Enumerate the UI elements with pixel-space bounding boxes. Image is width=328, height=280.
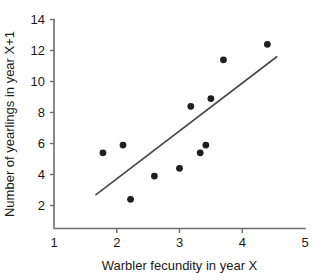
data-point bbox=[187, 103, 194, 110]
x-tick-label-4: 4 bbox=[239, 235, 246, 250]
chart-canvas: 14 12 10 8 6 4 2 1 2 3 4 5 Warbler fecun… bbox=[0, 0, 328, 280]
data-point bbox=[127, 196, 134, 203]
data-point bbox=[176, 165, 183, 172]
data-point bbox=[202, 142, 209, 149]
trend-line bbox=[96, 57, 277, 195]
y-tick-label-14: 14 bbox=[31, 12, 45, 27]
x-tick-label-1: 1 bbox=[50, 235, 57, 250]
axis-spines bbox=[54, 20, 305, 229]
y-axis-tick-labels: 14 12 10 8 6 4 2 bbox=[31, 12, 45, 213]
data-point bbox=[151, 173, 158, 180]
data-point bbox=[120, 142, 127, 149]
y-tick-label-2: 2 bbox=[38, 198, 45, 213]
y-tick-label-6: 6 bbox=[38, 136, 45, 151]
x-tick-label-5: 5 bbox=[301, 235, 308, 250]
data-point bbox=[197, 149, 204, 156]
y-tick-label-10: 10 bbox=[31, 74, 45, 89]
y-tick-label-12: 12 bbox=[31, 43, 45, 58]
data-point bbox=[220, 56, 227, 63]
y-tick-label-8: 8 bbox=[38, 105, 45, 120]
data-point bbox=[207, 95, 214, 102]
x-axis-title: Warbler fecundity in year X bbox=[102, 258, 258, 273]
y-axis-title: Number of yearlings in year X+1 bbox=[2, 31, 17, 217]
x-tick-label-3: 3 bbox=[176, 235, 183, 250]
x-tick-label-2: 2 bbox=[113, 235, 120, 250]
data-point bbox=[264, 41, 271, 48]
scatter-plot-figure: 14 12 10 8 6 4 2 1 2 3 4 5 Warbler fecun… bbox=[0, 0, 328, 280]
y-tick-label-4: 4 bbox=[38, 167, 45, 182]
data-point bbox=[100, 149, 107, 156]
x-axis-tick-labels: 1 2 3 4 5 bbox=[50, 235, 308, 250]
data-points-group bbox=[100, 41, 271, 203]
